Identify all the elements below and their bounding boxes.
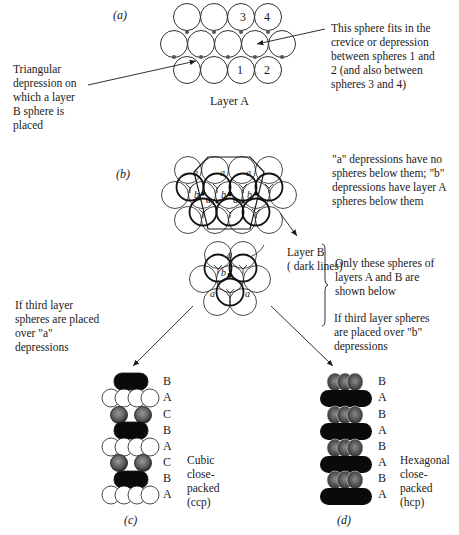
depression-a-label: a	[220, 166, 225, 180]
hcp-stack	[320, 373, 372, 505]
depression-b-label: b	[247, 188, 252, 202]
hcp-layer-label: A	[378, 455, 387, 470]
sphere-number-2: 2	[264, 63, 270, 77]
hcp-layer-label: B	[378, 471, 386, 486]
ccp-caption: Cubic close- packed (ccp)	[187, 453, 220, 509]
hcp-layer-label: B	[378, 439, 386, 454]
hcp-b-layer	[327, 373, 363, 391]
depression-a-label: a	[246, 166, 251, 180]
panel-c-label: (c)	[124, 513, 137, 528]
ccp-stack	[102, 373, 159, 504]
depression-b-label: b	[221, 188, 226, 202]
depression-types-note: "a" depressions have no spheres below th…	[332, 152, 447, 208]
ccp-layer-label: B	[163, 423, 171, 438]
ccp-layer-label: A	[163, 487, 172, 502]
left-branch-arrow	[133, 306, 193, 366]
ccp-layer-label: B	[163, 374, 171, 389]
layer-b-leader	[250, 245, 264, 257]
depression-a-label: a	[206, 193, 211, 207]
hcp-layer-label: B	[378, 407, 386, 422]
hcp-layer-label: A	[378, 390, 387, 405]
ccp-layer-label: C	[163, 407, 171, 422]
left-branch-note: If third layer spheres are placed over "…	[15, 298, 99, 354]
sphere-number-3: 3	[240, 10, 246, 24]
depression-b-label: b	[194, 188, 199, 202]
b-depression-dot	[228, 273, 233, 278]
sphere-number-1: 1	[237, 63, 243, 77]
ccp-layer-label: A	[163, 439, 172, 454]
depression-a-label: a	[210, 287, 215, 301]
sphere-number-4: 4	[264, 10, 270, 24]
hcp-layer-label: A	[378, 423, 387, 438]
layer-b-dark-spheres	[177, 174, 283, 226]
crevice-note: This sphere fits in the crevice or depre…	[331, 21, 435, 91]
layer-a-caption: Layer A	[210, 94, 249, 109]
hcp-caption: Hexagonal close- packed (hcp)	[400, 453, 450, 509]
ccp-layer-label: A	[163, 390, 172, 405]
layer-b-pointer-arrow	[280, 213, 297, 236]
ccp-layer-label: B	[163, 471, 171, 486]
right-branch-note: If third layer spheres are placed over "…	[334, 311, 429, 353]
triangular-depression-note: Triangular depression on which a layer B…	[13, 62, 77, 132]
depression-a-label: a	[193, 166, 198, 180]
right-branch-arrow	[271, 306, 333, 366]
panel-d-label: (d)	[337, 513, 351, 528]
depression-a-label: a	[233, 193, 238, 207]
hcp-layer-label: A	[378, 487, 387, 502]
depression-b-label: b	[221, 266, 226, 280]
ccp-layer-label: C	[163, 455, 171, 470]
depression-a-label: a	[227, 248, 232, 262]
depression-a-label: a	[245, 287, 250, 301]
hcp-layer-label: B	[378, 374, 386, 389]
layer-a-spheres	[161, 4, 296, 84]
panel-b-label: (b)	[116, 167, 130, 182]
shown-below-note: Only these spheres of layers A and B are…	[335, 256, 434, 298]
panel-a-label: (a)	[113, 8, 127, 23]
